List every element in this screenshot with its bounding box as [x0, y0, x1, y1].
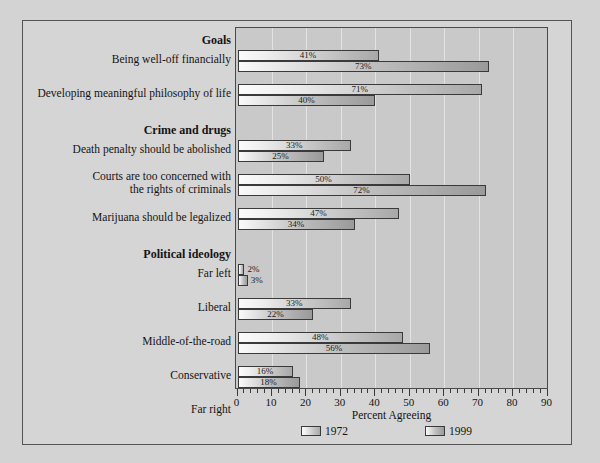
category-label-line: the rights of criminals — [92, 183, 231, 196]
legend-item-1972[interactable]: 1972 — [301, 425, 348, 437]
legend-swatch-icon — [425, 426, 445, 436]
x-tick-minor — [257, 389, 258, 393]
gridline — [548, 28, 549, 388]
category-label: Courts are too concerned withthe rights … — [92, 170, 231, 196]
bar-value-label: 22% — [238, 309, 314, 320]
x-tick-label: 50 — [403, 396, 414, 408]
x-tick-minor — [395, 389, 396, 393]
x-tick-minor — [402, 389, 403, 393]
category-label-column: GoalsBeing well-off financiallyDevelopin… — [28, 27, 231, 389]
bar-value-label: 25% — [238, 151, 324, 162]
x-tick-major — [478, 389, 479, 396]
legend-label: 1999 — [449, 425, 472, 437]
x-tick-minor — [464, 389, 465, 393]
bar-1972 — [238, 264, 245, 275]
legend-label: 1972 — [325, 425, 348, 437]
category-label: Far left — [197, 267, 231, 280]
category-label-line: Liberal — [198, 301, 231, 314]
category-label: Liberal — [198, 301, 231, 314]
x-tick-major — [374, 389, 375, 396]
chart-figure: GoalsBeing well-off financiallyDevelopin… — [0, 0, 600, 463]
category-label-line: Conservative — [170, 369, 231, 382]
bar-value-label: 18% — [238, 377, 300, 388]
x-tick-minor — [361, 389, 362, 393]
category-label-line: Middle-of-the-road — [142, 335, 231, 348]
category-label: Middle-of-the-road — [142, 335, 231, 348]
x-tick-minor — [471, 389, 472, 393]
x-tick-minor — [450, 389, 451, 393]
x-tick-minor — [333, 389, 334, 393]
bar-value-label: 40% — [238, 95, 376, 106]
x-tick-minor — [388, 389, 389, 393]
group-heading: Crime and drugs — [144, 124, 231, 137]
bar-value-label: 16% — [238, 366, 293, 377]
x-axis-title: Percent Agreeing — [235, 409, 548, 421]
category-label-line: Being well-off financially — [112, 53, 231, 66]
x-tick-minor — [278, 389, 279, 393]
x-tick-label: 90 — [541, 396, 552, 408]
x-tick-label: 20 — [300, 396, 311, 408]
x-tick-label: 40 — [369, 396, 380, 408]
bar-value-label: 48% — [238, 332, 403, 343]
category-label-line: Far left — [197, 267, 231, 280]
gridline — [479, 28, 480, 388]
bar-value-label: 33% — [238, 140, 352, 151]
x-tick-major — [443, 389, 444, 396]
category-label: Conservative — [170, 369, 231, 382]
x-tick-label: 10 — [265, 396, 276, 408]
x-tick-minor — [299, 389, 300, 393]
x-tick-minor — [367, 389, 368, 393]
x-tick-minor — [250, 389, 251, 393]
gridline — [444, 28, 445, 388]
bar-value-label: 33% — [238, 298, 352, 309]
category-label-line: Far right — [191, 403, 231, 416]
bar-1999 — [238, 275, 248, 286]
x-tick-major — [547, 389, 548, 396]
x-tick-minor — [416, 389, 417, 393]
x-tick-minor — [381, 389, 382, 393]
bar-value-label: 3% — [251, 275, 263, 286]
category-label-line: Courts are too concerned with — [92, 170, 231, 183]
x-tick-major — [271, 389, 272, 396]
x-tick-label: 30 — [334, 396, 345, 408]
category-label: Death penalty should be abolished — [73, 143, 231, 156]
x-tick-minor — [436, 389, 437, 393]
bar-value-label: 71% — [238, 84, 483, 95]
x-tick-minor — [498, 389, 499, 393]
category-label-line: Marijuana should be legalized — [92, 211, 231, 224]
x-tick-minor — [312, 389, 313, 393]
x-tick-minor — [429, 389, 430, 393]
x-tick-minor — [319, 389, 320, 393]
x-tick-minor — [540, 389, 541, 393]
chart-legend: 19721999 — [235, 425, 548, 441]
bar-value-label: 50% — [238, 174, 410, 185]
x-tick-minor — [347, 389, 348, 393]
bar-value-label: 47% — [238, 208, 400, 219]
x-axis-tick-labels: 0102030405060708090 — [235, 396, 548, 410]
category-label: Developing meaningful philosophy of life — [37, 87, 231, 100]
category-label: Marijuana should be legalized — [92, 211, 231, 224]
category-label: Far right — [191, 403, 231, 416]
x-tick-minor — [354, 389, 355, 393]
bar-value-label: 73% — [238, 61, 489, 72]
x-tick-label: 60 — [438, 396, 449, 408]
category-label-line: Death penalty should be abolished — [73, 143, 231, 156]
category-label-line: Developing meaningful philosophy of life — [37, 87, 231, 100]
x-tick-minor — [423, 389, 424, 393]
x-tick-minor — [326, 389, 327, 393]
x-tick-major — [340, 389, 341, 396]
plot-area: 41%73%71%40%33%25%50%72%47%34%2%3%33%22%… — [235, 27, 548, 389]
x-tick-minor — [491, 389, 492, 393]
legend-item-1999[interactable]: 1999 — [425, 425, 472, 437]
x-tick-minor — [505, 389, 506, 393]
x-tick-major — [409, 389, 410, 396]
bar-value-label: 34% — [238, 219, 355, 230]
gridline — [410, 28, 411, 388]
x-tick-minor — [285, 389, 286, 393]
x-axis-ticks — [235, 389, 548, 396]
x-tick-minor — [533, 389, 534, 393]
bar-value-label: 2% — [247, 264, 259, 275]
x-tick-minor — [457, 389, 458, 393]
bar-value-label: 41% — [238, 50, 379, 61]
group-heading: Goals — [202, 34, 231, 47]
